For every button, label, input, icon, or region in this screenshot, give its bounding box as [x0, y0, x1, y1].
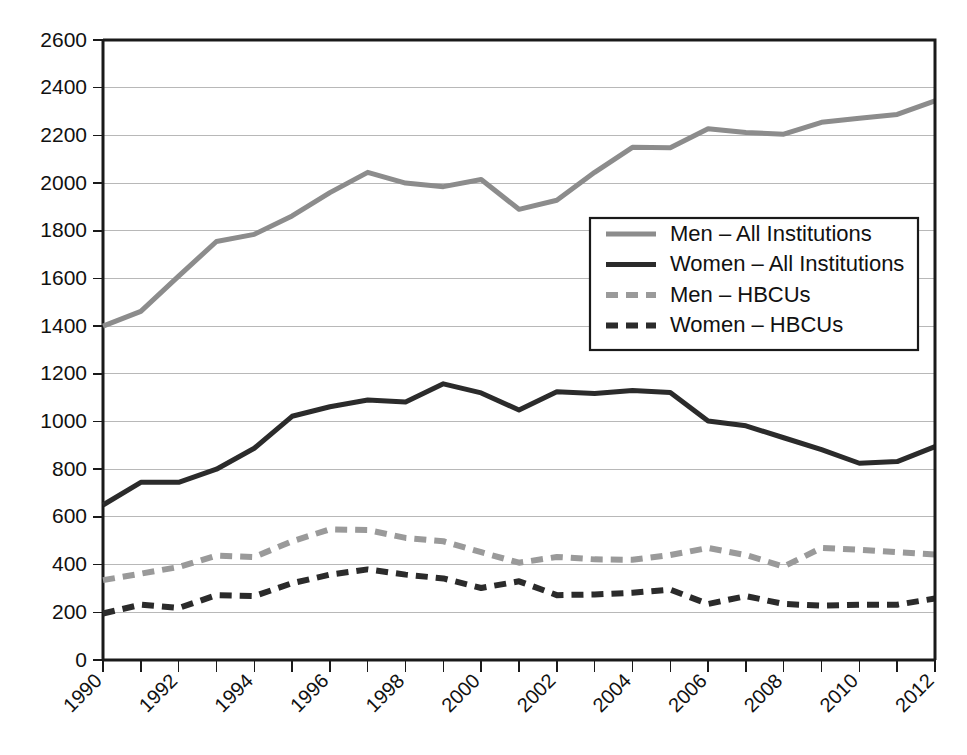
- legend-label-men-all-institutions: Men – All Institutions: [670, 221, 872, 246]
- x-axis-group: 1990199219941996199820002002200420062008…: [59, 660, 938, 716]
- y-tick-label: 2400: [40, 75, 87, 98]
- legend-label-women-hbcus: Women – HBCUs: [670, 312, 843, 337]
- y-tick-label: 600: [52, 504, 87, 527]
- x-tick-label: 1990: [59, 669, 106, 716]
- series-group: [103, 101, 935, 614]
- series-line-women-all-institutions: [103, 384, 935, 505]
- y-tick-label: 200: [52, 600, 87, 623]
- y-tick-label: 1600: [40, 266, 87, 289]
- y-axis-group: 0200400600800100012001400160018002000220…: [40, 28, 103, 671]
- x-tick-label: 2000: [437, 669, 484, 716]
- x-tick-label: 2002: [513, 669, 560, 716]
- chart-container: 0200400600800100012001400160018002000220…: [0, 0, 967, 755]
- x-tick-label: 2008: [740, 669, 787, 716]
- x-tick-label: 2010: [815, 669, 862, 716]
- y-tick-label: 400: [52, 552, 87, 575]
- x-tick-label: 1994: [210, 669, 257, 716]
- y-tick-label: 2600: [40, 28, 87, 51]
- y-tick-label: 2200: [40, 123, 87, 146]
- y-tick-label: 800: [52, 457, 87, 480]
- series-line-men-hbcus: [103, 529, 935, 580]
- series-line-women-hbcus: [103, 569, 935, 613]
- y-tick-label: 0: [75, 648, 87, 671]
- x-tick-label: 2006: [664, 669, 711, 716]
- y-tick-label: 2000: [40, 171, 87, 194]
- legend-label-men-hbcus: Men – HBCUs: [670, 282, 811, 307]
- legend-label-women-all-institutions: Women – All Institutions: [670, 251, 904, 276]
- y-tick-label: 1400: [40, 314, 87, 337]
- chart-legend: Men – All InstitutionsWomen – All Instit…: [590, 218, 918, 350]
- x-tick-label: 1992: [134, 669, 181, 716]
- line-chart: 0200400600800100012001400160018002000220…: [0, 0, 967, 755]
- y-tick-label: 1200: [40, 361, 87, 384]
- x-tick-label: 2004: [588, 669, 635, 716]
- x-tick-label: 1998: [361, 669, 408, 716]
- y-tick-label: 1800: [40, 218, 87, 241]
- x-tick-label: 1996: [286, 669, 333, 716]
- x-tick-label: 2012: [891, 669, 938, 716]
- y-tick-label: 1000: [40, 409, 87, 432]
